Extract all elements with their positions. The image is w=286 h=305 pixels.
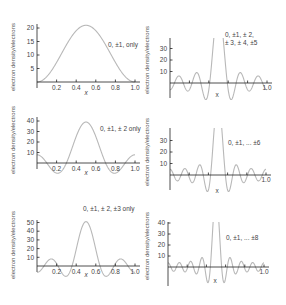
y-tick-label: 10 [160, 68, 168, 75]
x-tick-label: 0.8 [111, 84, 120, 91]
y-tick-label: 10 [27, 254, 35, 261]
series-annotation: ± 3, ± 4, ±5 [225, 39, 258, 46]
y-tick-label: 20 [27, 24, 35, 31]
y-tick-label: 20 [160, 148, 168, 155]
x-tick-label: 1.0 [261, 176, 270, 183]
y-tick-label: 20 [27, 245, 35, 252]
series-annotation: 0, ±1, ... ±8 [226, 234, 259, 241]
x-axis-label: x [83, 89, 88, 96]
x-tick-label: 0.6 [91, 84, 100, 91]
y-tick-label: 30 [158, 230, 166, 237]
x-tick-label: 0.2 [52, 268, 61, 275]
y-tick-label: 30 [160, 137, 168, 144]
x-tick-label: 1.0 [130, 165, 139, 172]
x-tick-label: 1.0 [262, 84, 271, 91]
y-tick-label: 15 [27, 38, 35, 45]
x-tick-label: 0.4 [72, 268, 81, 275]
x-tick-label: 0.8 [111, 268, 120, 275]
x-axis-label: x [215, 187, 219, 194]
y-tick-label: 20 [27, 138, 35, 145]
x-tick-label: 0.2 [52, 84, 61, 91]
x-tick-label: 0.4 [72, 165, 81, 172]
x-tick-label: 0.6 [91, 268, 100, 275]
series-annotation: 0, ±1, only [108, 41, 139, 49]
x-tick-label: 1.0 [259, 268, 268, 275]
x-tick-label: 0.2 [52, 165, 61, 172]
x-tick-label: 0.4 [72, 84, 81, 91]
y-tick-label: 50 [27, 219, 35, 226]
y-tick-label: 30 [160, 45, 168, 52]
y-tick-label: 10 [160, 160, 168, 167]
series-annotation: 0, ±1, ... ±6 [228, 139, 261, 146]
density-curve [170, 8, 267, 99]
y-axis-label: electron density/electrons [144, 26, 150, 94]
y-axis-label: electron density/electrons [144, 212, 150, 280]
x-tick-label: 0.8 [111, 165, 120, 172]
series-annotation: 0, ±1, ± 2, [225, 31, 254, 38]
y-axis-label: electron density/electrons [10, 211, 16, 279]
y-tick-label: 10 [27, 51, 35, 58]
x-axis-label: x [213, 277, 217, 284]
figure: 51015200.20.40.60.81.0xelectron density/… [0, 0, 286, 305]
y-tick-label: 40 [27, 227, 35, 234]
y-tick-label: 5 [30, 65, 34, 72]
density-curve [37, 25, 135, 82]
series-annotation: 0, ±1, ± 2, ±3 only [83, 205, 135, 213]
x-tick-label: 0.6 [91, 165, 100, 172]
x-tick-label: 1.0 [130, 84, 139, 91]
x-axis-label: x [83, 271, 88, 278]
y-tick-label: 10 [27, 149, 35, 156]
x-axis-label: x [83, 169, 88, 176]
y-axis-label: electron density/electrons [10, 23, 16, 91]
y-tick-label: 30 [27, 236, 35, 243]
y-tick-label: 40 [27, 117, 35, 124]
y-tick-label: 10 [158, 252, 166, 259]
y-tick-label: 30 [27, 128, 35, 135]
y-tick-label: 20 [160, 56, 168, 63]
y-axis-label: electron density/electrons [10, 106, 16, 174]
y-tick-label: 20 [158, 241, 166, 248]
x-tick-label: 1.0 [130, 268, 139, 275]
y-axis-label: electron density/electrons [144, 118, 150, 186]
x-axis-label: x [215, 91, 219, 98]
y-tick-label: 40 [158, 219, 166, 226]
series-annotation: 0, ±1, ± 2 only [100, 125, 141, 133]
